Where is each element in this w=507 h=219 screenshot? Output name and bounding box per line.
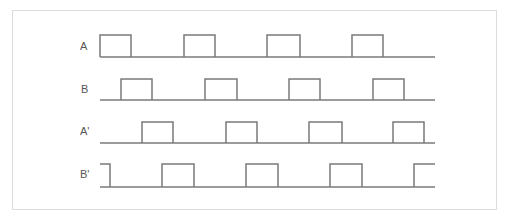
pulse-b — [373, 79, 404, 100]
pulse-a-prime — [309, 122, 342, 143]
timing-waveforms — [0, 0, 507, 219]
pulse-b — [205, 79, 237, 100]
pulse-b-prime — [414, 164, 435, 187]
pulse-a — [184, 35, 215, 57]
pulse-a-prime — [142, 122, 173, 143]
pulse-a-prime — [393, 122, 424, 143]
pulse-b-prime — [330, 164, 362, 187]
pulse-b-prime — [100, 164, 110, 187]
pulse-a — [352, 35, 383, 57]
pulse-b-prime — [162, 164, 194, 187]
pulse-a — [267, 35, 300, 57]
pulse-a-prime — [226, 122, 257, 143]
pulse-b — [121, 79, 152, 100]
pulse-a — [100, 35, 131, 57]
pulse-b — [289, 79, 320, 100]
pulse-b-prime — [246, 164, 278, 187]
